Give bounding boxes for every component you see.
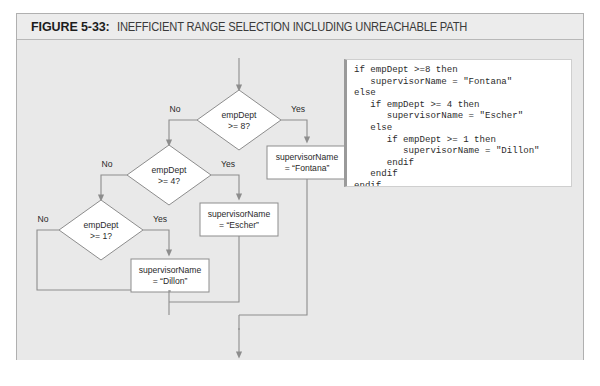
figure-number-label: FIGURE 5-33: [31,20,110,34]
pseudocode-text: if empDept >=8 then supervisorName = "Fo… [354,64,567,187]
decision-empdept-8-yes-label: Yes [291,104,305,114]
decision-empdept-4-line2: >= 4? [158,176,180,186]
process-dillon-line1: supervisorName [139,265,202,275]
figure-frame: FIGURE 5-33: INEFFICIENT RANGE SELECTION… [16,13,584,360]
diagram-body: empDept >= 8? Yes No supervisorName = “F… [17,40,583,360]
decision-empdept-8-no-path [169,120,197,143]
decision-empdept-8-line1: empDept [222,110,257,120]
decision-empdept-1-no-label: No [38,214,49,224]
decision-empdept-4-yes-path [211,175,239,197]
process-escher-line2: = “Escher” [219,220,259,230]
decision-empdept-1-line1: empDept [84,220,119,230]
decision-empdept-8-line2: >= 8? [228,121,250,131]
decision-empdept-4-yes-label: Yes [221,159,235,169]
decision-empdept-4-line1: empDept [152,165,187,175]
decision-empdept-4-no-path [101,175,127,198]
decision-empdept-4-shape [127,145,211,205]
decision-empdept-8-no-label: No [170,104,181,114]
decision-empdept-8-yes-path [281,120,307,140]
process-fontana-line2: = “Fontana” [285,163,330,173]
decision-empdept-1-shape [59,200,143,260]
decision-empdept-1-yes-label: Yes [153,214,167,224]
decision-empdept-8-shape [197,90,281,150]
process-dillon-line2: = “Dillon” [153,276,188,286]
pseudocode-panel: if empDept >=8 then supervisorName = "Fo… [344,59,572,187]
process-escher-line1: supervisorName [208,209,271,219]
figure-caption: FIGURE 5-33: INEFFICIENT RANGE SELECTION… [17,14,583,40]
decision-empdept-1-line2: >= 1? [90,231,112,241]
process-fontana-line1: supervisorName [276,152,339,162]
decision-empdept-1-yes-path [143,230,169,253]
process-fontana-exit-path [239,179,307,315]
decision-empdept-4-no-label: No [102,159,113,169]
figure-title-text: INEFFICIENT RANGE SELECTION INCLUDING UN… [117,20,467,34]
